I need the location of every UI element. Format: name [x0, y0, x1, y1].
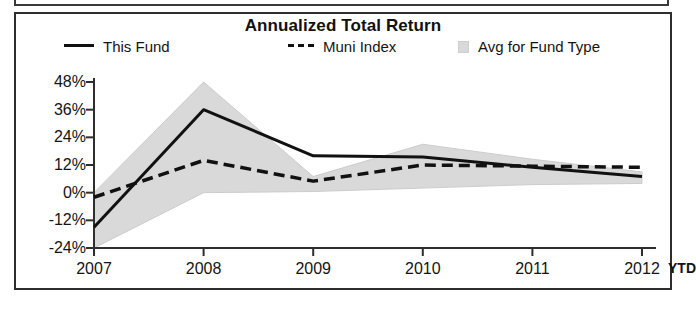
x-tick-label: 2009: [295, 261, 331, 277]
dashed-line-key-icon: [288, 44, 314, 47]
legend-label-avg-for-fund-type: Avg for Fund Type: [478, 38, 600, 55]
top-partial-frame: [14, 0, 669, 6]
x-axis-tick-labels: 200720082009201020112012YTD: [16, 60, 670, 292]
x-tick-label: 2012: [624, 261, 660, 277]
x-tick-label: 2008: [186, 261, 222, 277]
legend-label-this-fund: This Fund: [103, 38, 170, 55]
legend-label-muni-index: Muni Index: [323, 38, 396, 55]
legend-item-avg-for-fund-type[interactable]: Avg for Fund Type: [458, 38, 600, 55]
solid-line-key-icon: [64, 44, 94, 47]
legend-item-muni-index[interactable]: Muni Index: [288, 38, 396, 55]
x-tick-label: 2007: [76, 261, 112, 277]
x-tick-label: 2010: [405, 261, 441, 277]
chart-panel: Annualized Total Return This Fund Muni I…: [14, 12, 672, 290]
chart-title: Annualized Total Return: [16, 16, 670, 36]
legend-item-this-fund[interactable]: This Fund: [64, 38, 170, 55]
band-swatch-key-icon: [458, 41, 469, 53]
x-tick-label: 2011: [515, 261, 549, 277]
chart-legend: This Fund Muni Index Avg for Fund Type: [16, 38, 670, 60]
plot-area: 48%36%24%12%0%-12%-24% 20072008200920102…: [16, 60, 670, 292]
x-axis-ytd-label: YTD: [668, 260, 696, 276]
